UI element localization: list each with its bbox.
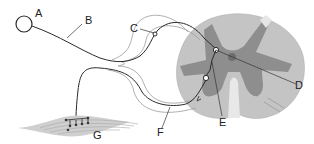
label-E: E xyxy=(219,116,226,128)
label-G: G xyxy=(93,129,102,141)
muscle-G xyxy=(18,115,138,136)
leader-F xyxy=(162,107,170,128)
label-F: F xyxy=(157,126,164,138)
label-D: D xyxy=(295,79,303,91)
label-C: C xyxy=(130,22,138,34)
motor-neuron-E xyxy=(203,75,208,80)
reflex-arc-diagram: A B C D E F G xyxy=(0,0,314,144)
label-B: B xyxy=(85,14,92,26)
leader-C xyxy=(140,29,154,33)
leader-B xyxy=(67,24,82,38)
receptor-A xyxy=(16,16,32,32)
label-A: A xyxy=(35,7,43,19)
